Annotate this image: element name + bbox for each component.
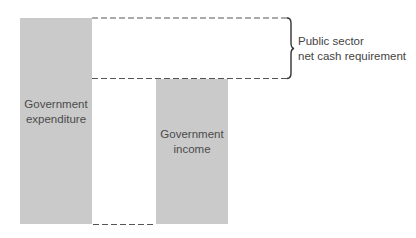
brace-label-line-1: Public sector [298, 34, 406, 49]
curly-brace-icon [287, 18, 294, 79]
brace-label-line-2: net cash requirement [298, 49, 406, 64]
brace-label-net-cash-requirement: Public sector net cash requirement [298, 34, 406, 64]
